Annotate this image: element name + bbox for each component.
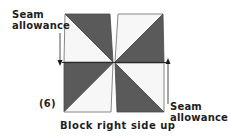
seam-allowance-label-right: Seam allowance [170, 101, 228, 123]
quadrant-bottom-left [64, 63, 113, 112]
step-number: (6) [39, 98, 56, 109]
quadrant-top-left [64, 14, 113, 62]
quadrant-top-right [115, 14, 164, 62]
arrow-up-icon [166, 58, 171, 104]
seam-label-line2: allowance [170, 112, 228, 123]
arrow-down-icon [58, 33, 63, 66]
quadrant-bottom-right [115, 63, 164, 112]
seam-label-line1: Seam [12, 9, 70, 20]
seam-label-line2: allowance [12, 20, 70, 31]
seam-allowance-label-left: Seam allowance [12, 9, 70, 31]
seam-label-line1: Seam [170, 101, 228, 112]
diagram-caption: Block right side up [60, 120, 175, 131]
